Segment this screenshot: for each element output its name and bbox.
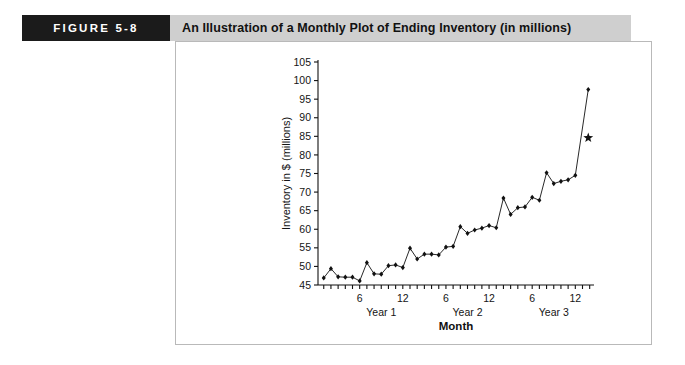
figure-header: FIGURE 5-8 An Illustration of a Monthly … (22, 15, 631, 41)
figure-title-text: An Illustration of a Monthly Plot of End… (170, 21, 571, 35)
data-point-marker (487, 223, 491, 228)
y-axis-tick-label: 105 (293, 56, 311, 68)
data-point-marker (494, 225, 498, 230)
y-axis-tick-label: 65 (299, 204, 311, 216)
data-point-marker (559, 179, 563, 184)
data-point-marker (451, 244, 455, 249)
y-axis-tick-label: 85 (299, 130, 311, 142)
x-axis-year-label: Year 3 (539, 306, 569, 318)
data-point-marker (480, 226, 484, 231)
y-axis-title: Inventory in $ (millions) (280, 117, 292, 230)
y-axis-tick-label: 75 (299, 167, 311, 179)
x-axis: 612612612Year 1Year 2Year 3 (318, 285, 594, 318)
data-point-marker (566, 177, 570, 182)
x-axis-tick-label: 12 (397, 292, 409, 304)
data-point-marker (422, 252, 426, 257)
figure-root: FIGURE 5-8 An Illustration of a Monthly … (0, 0, 685, 365)
data-point-marker (358, 278, 362, 283)
y-axis-tick-label: 60 (299, 223, 311, 235)
figure-number-label: FIGURE 5-8 (22, 15, 170, 41)
x-axis-tick-label: 6 (443, 292, 449, 304)
y-axis-tick-label: 95 (299, 93, 311, 105)
y-axis-tick-label: 55 (299, 241, 311, 253)
x-axis-tick-label: 12 (569, 292, 581, 304)
data-point-marker (343, 275, 347, 280)
chart-svg: 4550556065707580859095100105 612612612Ye… (280, 52, 600, 337)
data-point-marker (401, 265, 405, 270)
y-axis-tick-label: 50 (299, 260, 311, 272)
x-axis-title: Month (439, 320, 473, 332)
x-axis-year-label: Year 1 (366, 306, 396, 318)
y-axis: 4550556065707580859095100105 (293, 56, 318, 291)
data-point-marker (430, 252, 434, 257)
data-point-marker (394, 262, 398, 267)
data-point-marker (537, 198, 541, 203)
data-point-marker (501, 195, 505, 200)
y-axis-tick-label: 70 (299, 186, 311, 198)
inventory-line-chart: 4550556065707580859095100105 612612612Ye… (280, 52, 600, 337)
y-axis-tick-label: 45 (299, 279, 311, 291)
y-axis-tick-label: 90 (299, 111, 311, 123)
data-line (324, 90, 589, 281)
forecast-point-marker (586, 87, 590, 92)
data-point-marker (573, 173, 577, 178)
figure-title-box: An Illustration of a Monthly Plot of End… (170, 15, 631, 41)
star-marker (583, 133, 593, 142)
data-point-marker (350, 275, 354, 280)
x-axis-tick-label: 12 (483, 292, 495, 304)
x-axis-tick-label: 6 (529, 292, 535, 304)
x-axis-year-label: Year 2 (453, 306, 483, 318)
x-axis-tick-label: 6 (357, 292, 363, 304)
y-axis-tick-label: 100 (293, 74, 311, 86)
y-axis-tick-label: 80 (299, 149, 311, 161)
data-point-marker (473, 227, 477, 232)
data-series (322, 87, 593, 284)
